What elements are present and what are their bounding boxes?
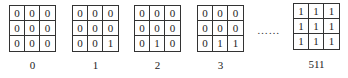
grid-cell: 0 [88,6,103,21]
grid-cell: 0 [198,6,213,21]
grid-cell: 0 [165,21,180,36]
grid-cell: 0 [150,21,165,36]
grid-cell: 0 [213,6,228,21]
grid-cell: 1 [294,19,309,34]
grid-cell: 0 [228,21,243,36]
pattern-grid: 0 0 0 0 0 0 0 1 1 [197,5,244,52]
pattern-511: 1 1 1 1 1 1 1 1 1 511 [293,3,341,50]
grid-cell: 0 [73,36,88,51]
pattern-index-label: 511 [293,58,340,70]
grid-cell: 0 [88,36,103,51]
grid-cell: 0 [40,6,55,21]
grid-cell: 0 [25,6,40,21]
grid-cell: 1 [324,34,339,49]
grid-cell: 0 [165,36,180,51]
grid-cell: 1 [309,4,324,19]
grid-cell: 0 [10,21,25,36]
pattern-index-label: 1 [72,59,119,71]
pattern-1: 0 0 0 0 0 0 0 0 1 1 [72,5,120,52]
grid-cell: 1 [103,36,118,51]
grid-cell: 1 [213,36,228,51]
grid-cell: 0 [73,21,88,36]
grid-cell: 0 [198,36,213,51]
grid-cell: 0 [73,6,88,21]
grid-cell: 1 [309,34,324,49]
grid-cell: 1 [309,19,324,34]
grid-cell: 0 [103,21,118,36]
grid-cell: 0 [135,21,150,36]
grid-cell: 1 [294,4,309,19]
pattern-index-label: 2 [134,59,181,71]
grid-cell: 0 [213,21,228,36]
grid-cell: 1 [324,4,339,19]
grid-cell: 0 [25,21,40,36]
grid-cell: 0 [10,36,25,51]
pattern-index-label: 3 [197,59,244,71]
grid-cell: 0 [88,21,103,36]
ellipsis: …… [257,24,280,36]
grid-cell: 1 [324,19,339,34]
grid-cell: 0 [10,6,25,21]
grid-cell: 0 [150,6,165,21]
grid-cell: 0 [40,36,55,51]
pattern-index-label: 0 [9,59,56,71]
grid-cell: 0 [165,6,180,21]
pattern-grid: 0 0 0 0 0 0 0 0 1 [72,5,119,52]
grid-cell: 0 [40,21,55,36]
grid-cell: 0 [228,6,243,21]
grid-cell: 1 [150,36,165,51]
grid-cell: 0 [135,6,150,21]
grid-cell: 0 [25,36,40,51]
pattern-0: 0 0 0 0 0 0 0 0 0 0 [9,5,57,52]
grid-cell: 1 [294,34,309,49]
grid-cell: 0 [103,6,118,21]
pattern-grid: 0 0 0 0 0 0 0 0 0 [9,5,56,52]
grid-cell: 1 [228,36,243,51]
pattern-3: 0 0 0 0 0 0 0 1 1 3 [197,5,245,52]
pattern-grid: 0 0 0 0 0 0 0 1 0 [134,5,181,52]
grid-cell: 0 [135,36,150,51]
grid-cell: 0 [198,21,213,36]
pattern-grid: 1 1 1 1 1 1 1 1 1 [293,3,340,50]
pattern-2: 0 0 0 0 0 0 0 1 0 2 [134,5,182,52]
